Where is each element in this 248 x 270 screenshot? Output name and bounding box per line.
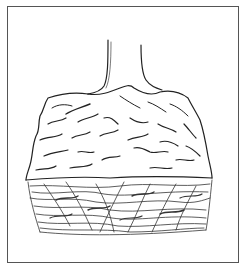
soil-clump bbox=[26, 86, 212, 180]
root-mass bbox=[28, 180, 212, 235]
tree-root-ball-illustration bbox=[0, 0, 248, 270]
